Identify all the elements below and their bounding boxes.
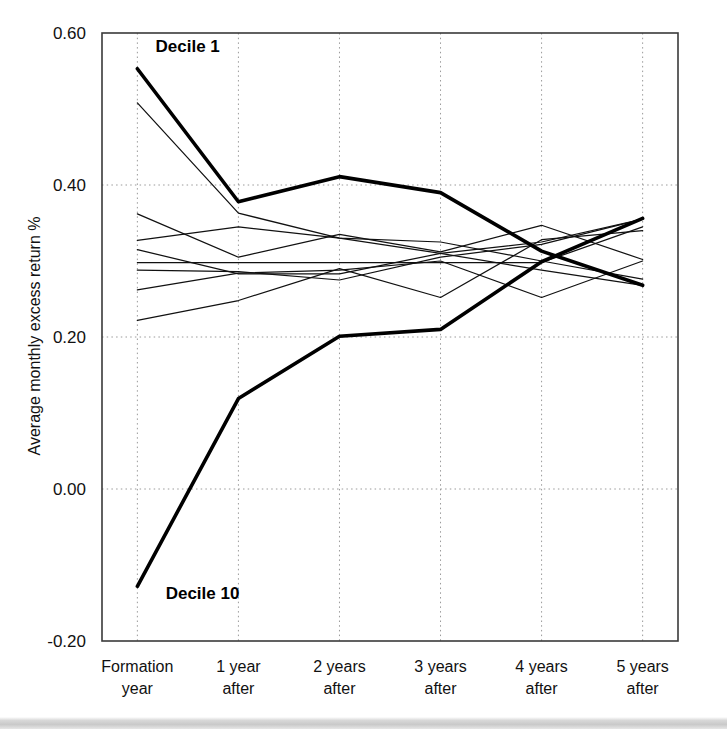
annotation-decile-1: Decile 1 <box>156 37 220 56</box>
x-tick-label: 3 years <box>414 658 466 675</box>
series-line-decile-8 <box>137 261 642 297</box>
y-tick-label: -0.20 <box>47 632 86 651</box>
series-annotations: Decile 1Decile 10 <box>156 37 240 603</box>
x-tick-label: after <box>526 680 559 697</box>
x-tick-label: after <box>627 680 660 697</box>
annotation-decile-10: Decile 10 <box>166 584 240 603</box>
y-tick-label: 0.40 <box>53 176 86 195</box>
x-tick-label: after <box>323 680 356 697</box>
chart-figure: -0.200.000.200.400.60 Formationyear1 yea… <box>0 0 727 729</box>
y-tick-label: 0.00 <box>53 480 86 499</box>
y-tick-label: 0.20 <box>53 328 86 347</box>
x-tick-label: year <box>122 680 154 697</box>
x-tick-label: 4 years <box>515 658 567 675</box>
line-chart: -0.200.000.200.400.60 Formationyear1 yea… <box>0 0 727 729</box>
x-tick-label: Formation <box>101 658 173 675</box>
y-tick-label: 0.60 <box>53 24 86 43</box>
x-tick-label: 5 years <box>616 658 668 675</box>
y-axis-title: Average monthly excess return % <box>26 217 43 456</box>
x-tick-label: 2 years <box>313 658 365 675</box>
x-tick-label: after <box>425 680 458 697</box>
x-tick-label: after <box>222 680 255 697</box>
x-tick-label: 1 year <box>216 658 261 675</box>
page-edge-band <box>0 717 727 729</box>
series-line-decile-9 <box>137 231 642 321</box>
x-axis-tick-labels: Formationyear1 yearafter2 yearsafter3 ye… <box>101 658 669 697</box>
y-axis-tick-labels: -0.200.000.200.400.60 <box>47 24 86 651</box>
series-line-decile-6 <box>137 227 642 263</box>
series-lines <box>137 69 642 587</box>
